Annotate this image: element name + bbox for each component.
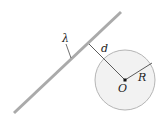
- radius-label: R: [137, 71, 146, 84]
- center-label: O: [118, 82, 127, 95]
- lambda-label: λ: [61, 32, 69, 45]
- distance-label: d: [101, 42, 108, 55]
- lambda-pointer: [66, 44, 71, 58]
- diagram: λ d O R: [0, 0, 164, 124]
